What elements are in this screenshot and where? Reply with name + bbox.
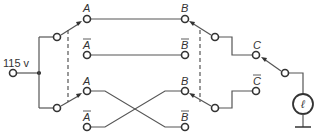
label-b: B	[181, 2, 188, 14]
source-terminal	[10, 70, 17, 77]
label-b-bar: B	[181, 39, 188, 51]
label-b-bar-2: B	[181, 111, 188, 123]
circuit-diagram: ℓ 115 v A A A A B B B B C C	[0, 0, 333, 135]
label-c-bar: C	[253, 75, 261, 87]
label-a-bar-2: A	[82, 111, 90, 123]
lamp-label: ℓ	[300, 98, 305, 110]
label-c: C	[253, 39, 261, 51]
label-a-2: A	[82, 75, 90, 87]
circuit-svg: ℓ 115 v A A A A B B B B C C	[0, 0, 333, 135]
label-a-bar: A	[82, 39, 90, 51]
label-a: A	[82, 2, 90, 14]
source-label: 115 v	[3, 57, 30, 69]
label-b-2: B	[181, 75, 188, 87]
